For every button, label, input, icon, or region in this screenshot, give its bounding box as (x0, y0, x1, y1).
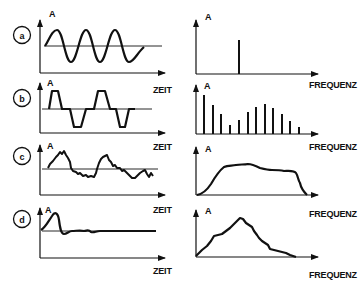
row-d-label: d (19, 215, 25, 225)
row-c-amplitude-label: A (47, 141, 54, 151)
row-b: ZEIT FREQUENZ b A A (14, 78, 358, 134)
row-c-frequency-axis-label: FREQUENZ (309, 209, 358, 219)
row-b-frequency-axis-label: FREQUENZ (309, 142, 358, 152)
row-d-spectrum-amplitude-label: A (205, 206, 212, 216)
row-c-time-plot: A (40, 141, 165, 195)
row-a: a A A (14, 9, 319, 74)
row-b-time-axis-label: ZEIT (153, 142, 172, 152)
row-c-spectrum-plot: A (196, 144, 318, 195)
row-c-spectrum-amplitude-label: A (205, 144, 212, 154)
row-b-spectrum-amplitude-label: A (204, 81, 211, 91)
row-b-badge: b (14, 90, 31, 107)
row-a-spectrum-amplitude-label: A (205, 12, 212, 22)
row-a-label: a (19, 31, 25, 41)
row-d-time-axis-label: ZEIT (153, 266, 172, 276)
row-c: ZEIT FREQUENZ c A A (14, 141, 358, 195)
row-a-frequency-axis-label: FREQUENZ (309, 80, 358, 90)
noise-signal (48, 151, 153, 178)
row-b-label: b (19, 94, 25, 104)
row-c-badge: c (14, 148, 31, 165)
triangular-spectrum (196, 218, 296, 257)
row-b-spectrum-plot: A (196, 81, 318, 134)
row-a-spectrum-plot: A (196, 12, 318, 74)
line-spectrum (204, 95, 299, 134)
row-a-time-plot: A (40, 9, 165, 73)
broadband-spectrum (197, 164, 307, 195)
row-a-badge: a (14, 27, 31, 44)
row-a-time-axis-label: ZEIT (153, 85, 172, 95)
row-d: ZEIT FREQUENZ d A A ZEIT FREQUENZ (14, 205, 358, 280)
row-d-amplitude-label: A (45, 205, 52, 215)
signal-spectrum-diagram: a A A ZEIT FREQUENZ b A (0, 0, 358, 288)
row-d-badge: d (14, 211, 31, 228)
row-c-time-axis-label: ZEIT (153, 205, 172, 215)
row-d-spectrum-plot: A (196, 206, 318, 257)
row-b-amplitude-label: A (47, 78, 54, 88)
row-a-amplitude-label: A (49, 9, 56, 19)
row-d-frequency-axis-label: FREQUENZ (309, 270, 358, 280)
row-c-label: c (19, 152, 24, 162)
row-d-time-plot: A (40, 205, 165, 258)
row-b-time-plot: A (40, 78, 165, 133)
